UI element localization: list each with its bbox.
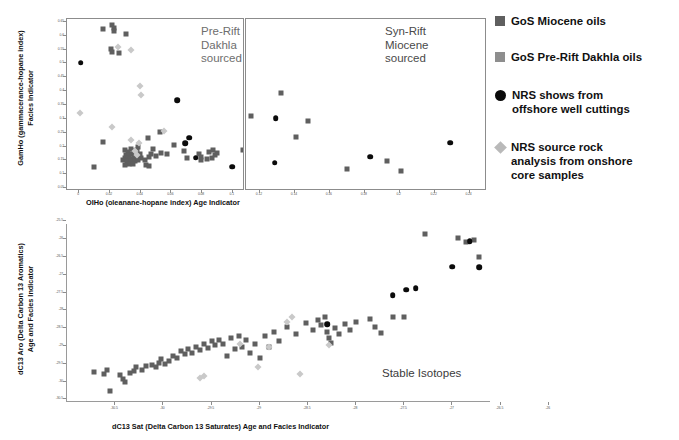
y-tick-label: -30 <box>49 379 63 383</box>
data-point <box>348 328 353 333</box>
legend-item-2[interactable]: NRS shows from offshore well cuttings <box>495 88 630 116</box>
x-tick-label: -27 <box>442 406 460 410</box>
data-point <box>324 322 330 328</box>
data-point <box>297 370 304 377</box>
data-point <box>293 134 298 139</box>
data-point <box>182 140 188 146</box>
data-point <box>109 49 114 54</box>
x-tick-label: -30.5 <box>105 406 123 410</box>
data-point <box>277 338 282 343</box>
data-point <box>367 317 372 322</box>
data-point <box>477 254 482 259</box>
data-point <box>108 389 113 394</box>
x-tick-mark <box>114 402 115 405</box>
data-point <box>172 142 177 147</box>
data-point <box>262 333 267 338</box>
x-tick-mark <box>355 402 356 405</box>
data-point <box>174 355 179 360</box>
data-point <box>130 161 135 166</box>
top-y-title-line1: GamHo (gammacerance-hopane index) <box>16 8 26 188</box>
data-point <box>105 367 110 372</box>
x-tick-mark <box>170 190 171 193</box>
y-tick-label: -29 <box>49 343 63 347</box>
data-point <box>186 135 192 141</box>
data-point <box>403 287 409 293</box>
data-point <box>402 314 407 319</box>
data-point <box>367 154 373 160</box>
x-tick-mark <box>500 402 501 405</box>
data-point <box>448 140 454 146</box>
data-point <box>184 155 189 160</box>
y-tick-label: -28.5 <box>49 325 63 329</box>
data-point <box>289 314 296 321</box>
data-point <box>294 332 299 337</box>
bottom-chart-y-axis-title: dC13 Aro (Delta Carbon 13 Aromatics) Age… <box>16 216 35 402</box>
data-point <box>325 329 330 334</box>
figure-root: GamHo (gammacerance-hopane index) Facies… <box>0 0 679 440</box>
y-tick-label: -27 <box>49 272 63 276</box>
data-point <box>101 140 106 145</box>
bottom-chart-x-axis-title: dC13 Sat (Delta Carbon 13 Saturates) Age… <box>112 422 329 431</box>
data-point <box>210 156 215 161</box>
legend-item-label: NRS source rock analysis from onshore co… <box>511 140 633 182</box>
x-tick-mark <box>162 402 163 405</box>
x-tick-mark <box>451 402 452 405</box>
x-tick-label: -26 <box>539 406 557 410</box>
data-point <box>248 350 253 355</box>
x-tick-mark <box>109 190 110 193</box>
x-tick-mark <box>294 190 295 193</box>
data-point <box>303 320 308 325</box>
x-tick-mark <box>548 402 549 405</box>
x-tick-mark <box>469 190 470 193</box>
data-point <box>158 150 163 155</box>
x-tick-mark <box>140 190 141 193</box>
x-tick-mark <box>329 190 330 193</box>
data-point <box>109 123 116 130</box>
data-point <box>254 364 261 371</box>
legend-item-label: NRS shows from offshore well cuttings <box>512 88 630 116</box>
legend-item-3[interactable]: NRS source rock analysis from onshore co… <box>495 140 633 182</box>
legend-item-1[interactable]: GoS Pre-Rift Dakhla oils <box>495 50 642 64</box>
data-point <box>123 162 128 167</box>
data-point <box>147 163 152 168</box>
data-point <box>153 365 158 370</box>
x-tick-label: -27.5 <box>394 406 412 410</box>
data-point <box>345 166 350 171</box>
legend-item-label: GoS Miocene oils <box>511 14 606 28</box>
data-point <box>240 148 243 153</box>
data-point <box>249 114 254 119</box>
data-point <box>272 329 277 334</box>
square-light-icon <box>495 52 505 62</box>
data-point <box>182 149 187 154</box>
x-tick-label: -29 <box>250 406 268 410</box>
legend-item-0[interactable]: GoS Miocene oils <box>495 14 606 28</box>
y-tick-label: -30.5 <box>49 396 63 400</box>
legend-item-label: GoS Pre-Rift Dakhla oils <box>511 50 642 64</box>
x-tick-mark <box>232 190 233 193</box>
data-point <box>278 91 283 96</box>
data-point <box>323 315 328 320</box>
data-point <box>221 341 226 346</box>
y-tick-label: -26.5 <box>49 254 63 258</box>
data-point <box>138 92 145 99</box>
data-point <box>144 363 149 368</box>
circle-black-icon <box>495 90 506 101</box>
data-point <box>252 341 257 346</box>
data-point <box>332 325 337 330</box>
data-point <box>342 321 347 326</box>
x-tick-mark <box>403 402 404 405</box>
data-point <box>91 164 96 169</box>
bottom-y-title-line2: Age and Facies Indicator <box>26 216 36 402</box>
data-point <box>197 348 202 353</box>
top-chart-y-axis-title: GamHo (gammacerance-hopane index) Facies… <box>16 8 35 188</box>
x-tick-mark <box>259 190 260 193</box>
data-point <box>413 285 419 291</box>
y-tick-label: -28 <box>49 307 63 311</box>
data-point <box>136 83 143 90</box>
diamond-light-icon <box>494 141 507 154</box>
x-tick-mark <box>201 190 202 193</box>
data-point <box>450 264 456 270</box>
data-point <box>244 338 249 343</box>
data-point <box>161 127 168 134</box>
data-point <box>150 146 155 151</box>
